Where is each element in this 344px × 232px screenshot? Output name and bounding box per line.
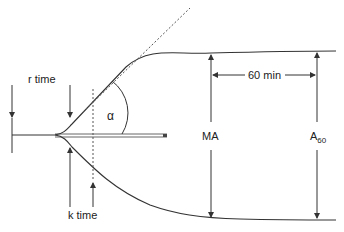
ma-label: MA [202, 130, 219, 142]
teg-diagram: α r time k time MA A60 60 min [0, 0, 344, 232]
k-time-label: k time [68, 209, 97, 221]
upper-trace [55, 51, 336, 135]
lower-trace [55, 135, 336, 220]
interval-label: 60 min [248, 69, 281, 81]
alpha-arc [112, 81, 128, 134]
r-time-label: r time [28, 73, 56, 85]
alpha-label: α [107, 109, 114, 123]
a60-label: A60 [310, 130, 327, 145]
alpha-tangent-line [80, 8, 190, 115]
